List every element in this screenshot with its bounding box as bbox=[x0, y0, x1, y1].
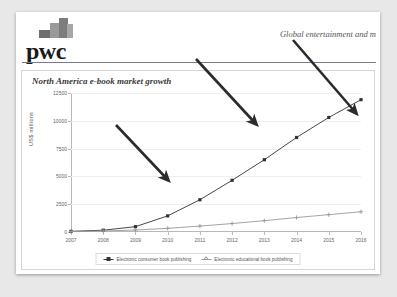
data-point bbox=[359, 98, 362, 101]
data-point bbox=[295, 136, 298, 139]
plot-area: 02500500075001000012500 2007200820092010… bbox=[71, 93, 361, 232]
pwc-stepped-blocks-mark-icon bbox=[39, 16, 73, 38]
y-axis-label: US$ millions bbox=[28, 112, 34, 146]
data-point bbox=[166, 226, 170, 230]
pwc-logo-text: pwc bbox=[26, 39, 73, 63]
x-tick-label: 2010 bbox=[162, 237, 173, 243]
x-tick-label: 2012 bbox=[227, 237, 238, 243]
x-tick-mark bbox=[297, 232, 298, 235]
data-point bbox=[263, 158, 266, 161]
document-title: Global entertainment and m bbox=[280, 29, 376, 39]
x-tick-label: 2015 bbox=[323, 237, 334, 243]
x-tick-label: 2016 bbox=[355, 237, 366, 243]
chart-container: North America e-book market growth US$ m… bbox=[21, 70, 375, 270]
x-tick-mark bbox=[135, 232, 136, 235]
series-line bbox=[71, 100, 361, 232]
x-tick-mark bbox=[264, 232, 265, 235]
x-tick-mark bbox=[200, 232, 201, 235]
x-tick-mark bbox=[168, 232, 169, 235]
data-point bbox=[327, 116, 330, 119]
x-tick-mark bbox=[329, 232, 330, 235]
legend-plus-marker-icon bbox=[201, 256, 211, 262]
data-point bbox=[133, 228, 137, 232]
slide-card: pwc Global entertainment and m North Ame… bbox=[16, 12, 380, 274]
legend-item[interactable]: Electronic educational book publishing bbox=[201, 256, 292, 262]
data-point bbox=[359, 210, 363, 214]
data-point bbox=[166, 214, 169, 217]
y-tick-label: 12500 bbox=[53, 90, 71, 96]
y-tick-label: 5000 bbox=[56, 173, 71, 179]
data-point bbox=[327, 213, 331, 217]
data-point bbox=[198, 198, 201, 201]
legend-square-marker-icon bbox=[104, 256, 114, 262]
header-divider bbox=[22, 62, 376, 63]
pwc-logo: pwc bbox=[25, 16, 73, 63]
data-point bbox=[231, 179, 234, 182]
series-lines bbox=[71, 93, 361, 232]
x-tick-label: 2011 bbox=[194, 237, 205, 243]
y-tick-label: 7500 bbox=[56, 146, 71, 152]
data-point bbox=[134, 225, 137, 228]
data-point bbox=[294, 215, 298, 219]
chart-title: North America e-book market growth bbox=[32, 76, 171, 86]
data-point bbox=[230, 221, 234, 225]
x-tick-label: 2007 bbox=[65, 237, 76, 243]
legend-label: Electronic consumer book publishing bbox=[117, 257, 192, 262]
y-tick-label: 10000 bbox=[53, 118, 71, 124]
chart-legend: Electronic consumer book publishingElect… bbox=[96, 253, 301, 265]
data-point bbox=[198, 224, 202, 228]
legend-label: Electronic educational book publishing bbox=[214, 257, 292, 262]
x-tick-mark bbox=[361, 232, 362, 235]
x-tick-mark bbox=[232, 232, 233, 235]
data-point bbox=[262, 219, 266, 223]
x-tick-label: 2009 bbox=[130, 237, 141, 243]
legend-item[interactable]: Electronic consumer book publishing bbox=[104, 256, 192, 262]
x-tick-label: 2014 bbox=[291, 237, 302, 243]
y-tick-label: 2500 bbox=[56, 201, 71, 207]
x-tick-label: 2013 bbox=[259, 237, 270, 243]
slide-header: pwc Global entertainment and m bbox=[16, 12, 380, 64]
x-tick-label: 2008 bbox=[98, 237, 109, 243]
